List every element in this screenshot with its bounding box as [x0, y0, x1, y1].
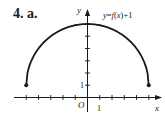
endpoint-dot	[24, 83, 28, 87]
endpoint-dot	[147, 83, 151, 87]
curve-label: y=f(x)+1	[102, 10, 132, 20]
x-tick-label: 1	[97, 104, 101, 113]
y-axis-label: y	[76, 5, 81, 15]
y-tick-label: 1	[80, 81, 84, 90]
x-axis-label: x	[154, 103, 159, 113]
origin-label: O	[78, 100, 85, 110]
chart: y x O 1 1 y=f(x)+1	[0, 0, 165, 116]
